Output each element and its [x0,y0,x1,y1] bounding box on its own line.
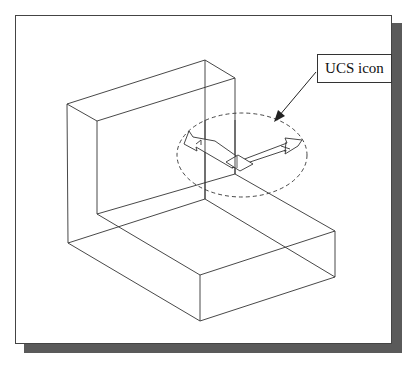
callout-label-text: UCS icon [325,60,384,77]
wall-top-face [67,60,235,121]
l-shaped-solid [67,60,335,321]
base-front-bottom-edge [200,277,335,321]
base-left-bottom-edge [68,243,200,321]
base-back-top-edge [68,199,205,243]
callout-leader-line [279,72,316,116]
ucs-icon-callout-label: UCS icon [317,54,392,83]
base-hidden-diagonal [205,199,335,277]
wall-left-edge [67,104,68,243]
base-left-top-edge [97,214,200,275]
ucs-icon [184,131,302,171]
base-right-top-edge [235,174,335,231]
ucs-highlight-ellipse [177,113,307,197]
callout-arrowhead-icon [274,110,285,122]
base-front-top-edge [200,231,335,275]
wall-base-junction [97,174,235,214]
